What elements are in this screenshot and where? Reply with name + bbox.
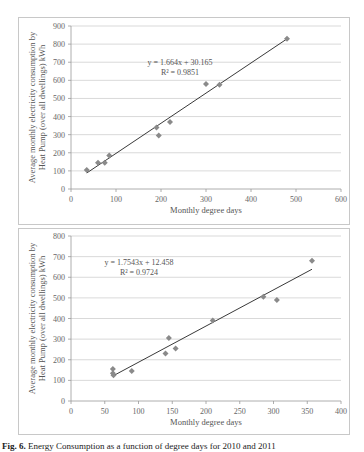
chart-top-plot: 0100200300400500600700800900010020030040… — [19, 18, 351, 226]
x-tick-label: 0 — [69, 407, 73, 416]
x-axis-label: Monthly degree days — [170, 205, 242, 215]
x-tick-label: 300 — [268, 407, 280, 416]
chart-bottom-plot: 0100200300400500600700800050100150200250… — [19, 229, 351, 436]
data-point-marker — [166, 335, 172, 341]
y-tick-label: 100 — [53, 167, 65, 176]
trendline-equation: y = 1.664x + 30.165 — [147, 58, 212, 67]
y-tick-label: 500 — [53, 94, 65, 103]
x-tick-label: 250 — [234, 407, 246, 416]
y-tick-label: 400 — [53, 315, 65, 324]
x-tick-label: 200 — [155, 195, 167, 204]
r-squared-label: R² = 0.9724 — [120, 268, 158, 277]
x-tick-label: 50 — [101, 407, 109, 416]
y-tick-label: 300 — [53, 335, 65, 344]
data-point-marker — [163, 351, 169, 357]
y-tick-label: 300 — [53, 131, 65, 140]
chart-top-frame: 0100200300400500600700800900010020030040… — [18, 17, 350, 225]
trendline-equation: y = 1.7543x + 12.458 — [104, 258, 173, 267]
x-tick-label: 350 — [301, 407, 313, 416]
data-point-marker — [173, 345, 179, 351]
x-tick-label: 500 — [290, 195, 302, 204]
x-axis-label: Monthly degree days — [170, 417, 242, 427]
x-tick-label: 150 — [166, 407, 178, 416]
data-point-marker — [309, 258, 315, 264]
y-tick-label: 400 — [53, 113, 65, 122]
caption-label: Fig. 6. — [2, 441, 26, 451]
data-point-marker — [203, 81, 209, 87]
x-tick-label: 400 — [335, 407, 347, 416]
x-tick-label: 100 — [133, 407, 145, 416]
y-tick-label: 200 — [53, 149, 65, 158]
y-tick-label: 100 — [53, 376, 65, 385]
x-tick-label: 300 — [200, 195, 212, 204]
y-tick-label: 800 — [53, 40, 65, 49]
x-tick-label: 200 — [200, 407, 212, 416]
y-axis-label: Average monthly electricity consumption … — [27, 31, 47, 183]
data-point-marker — [260, 294, 266, 300]
y-tick-label: 0 — [61, 185, 65, 194]
x-tick-label: 400 — [245, 195, 257, 204]
chart-bottom-frame: 0100200300400500600700800050100150200250… — [18, 228, 350, 435]
y-tick-label: 700 — [53, 58, 65, 67]
y-tick-label: 500 — [53, 294, 65, 303]
x-tick-label: 100 — [110, 195, 122, 204]
y-tick-label: 600 — [53, 273, 65, 282]
data-point-marker — [156, 133, 162, 139]
y-axis-label: Average monthly electricity consumption … — [27, 242, 47, 394]
data-point-marker — [95, 160, 101, 166]
data-point-marker — [129, 368, 135, 374]
r-squared-label: R² = 0.9851 — [161, 68, 199, 77]
y-tick-label: 0 — [61, 397, 65, 406]
data-point-marker — [102, 160, 108, 166]
y-tick-label: 200 — [53, 356, 65, 365]
x-tick-label: 0 — [69, 195, 73, 204]
caption-text: Energy Consumption as a function of degr… — [28, 441, 276, 451]
x-tick-label: 600 — [335, 195, 347, 204]
figure-caption: Fig. 6. Energy Consumption as a function… — [2, 441, 276, 451]
y-tick-label: 900 — [53, 22, 65, 31]
y-tick-label: 800 — [53, 232, 65, 241]
data-point-marker — [106, 152, 112, 158]
y-tick-label: 600 — [53, 76, 65, 85]
y-tick-label: 700 — [53, 253, 65, 262]
data-point-marker — [167, 119, 173, 125]
